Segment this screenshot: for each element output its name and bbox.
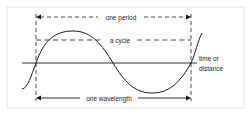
period-label: one period <box>106 14 137 22</box>
axis-label-line1: time or <box>199 55 220 62</box>
sine-wave-diagram: one period a cycle time or distance one … <box>0 0 252 116</box>
axis-label-line2: distance <box>199 65 224 72</box>
wavelength-label: one wavelength <box>86 95 132 103</box>
cycle-label: a cycle <box>110 37 131 45</box>
